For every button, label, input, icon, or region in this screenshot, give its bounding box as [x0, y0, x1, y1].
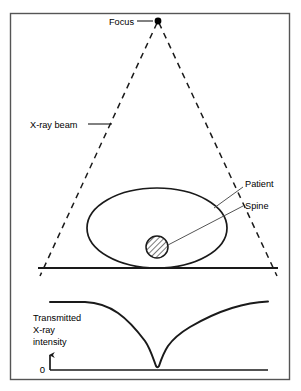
focus-point [155, 18, 162, 25]
spine-circle [146, 236, 168, 258]
intensity-label-line1: Transmitted [33, 313, 81, 323]
patient-label: Patient [245, 179, 274, 189]
figure-canvas: Focus X-ray beam Patient Spine 0 Transmi… [0, 0, 301, 391]
xray-projection-figure: Focus X-ray beam Patient Spine 0 Transmi… [0, 0, 301, 391]
xray-beam-label: X-ray beam [30, 120, 78, 130]
intensity-label-line2: X-ray [33, 325, 55, 335]
zero-label: 0 [40, 364, 45, 375]
intensity-label-line3: intensity [33, 337, 67, 347]
spine-label: Spine [245, 201, 269, 211]
focus-label: Focus [109, 17, 134, 27]
